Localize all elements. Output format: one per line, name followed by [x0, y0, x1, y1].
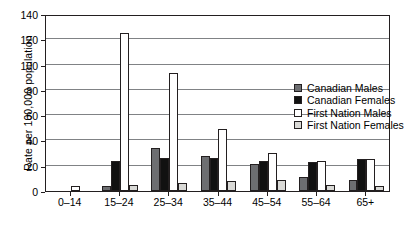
bar-chart-figure: Rate per 100,000 population 020406080100…	[0, 0, 407, 228]
legend-item: Canadian Males	[294, 82, 404, 94]
bar-group	[243, 16, 292, 191]
x-tick-label: 0–14	[45, 196, 94, 208]
x-tick-label: 55–64	[291, 196, 340, 208]
legend-label: First Nation Females	[307, 120, 404, 131]
bar	[357, 159, 366, 191]
x-tick-mark	[267, 192, 268, 196]
x-tick-label: 25–34	[144, 196, 193, 208]
legend-label: Canadian Females	[307, 95, 395, 106]
x-tick-label: 15–24	[94, 196, 143, 208]
bar-group	[145, 16, 194, 191]
bar	[71, 186, 80, 191]
bar	[349, 180, 358, 191]
y-tick-label: 120	[20, 35, 38, 45]
bar	[218, 129, 227, 191]
bar-group	[95, 16, 144, 191]
x-tick-mark	[316, 192, 317, 196]
bar	[326, 185, 335, 191]
bar	[151, 148, 160, 191]
x-tick-mark	[365, 192, 366, 196]
bar	[277, 180, 286, 191]
bar	[120, 33, 129, 191]
bar	[299, 177, 308, 191]
bar	[366, 159, 375, 191]
y-tick-label: 60	[26, 111, 38, 121]
bar	[178, 183, 187, 191]
legend-label: First Nation Males	[307, 108, 392, 119]
x-tick-mark	[218, 192, 219, 196]
legend-swatch-icon	[294, 109, 302, 117]
x-tick-label: 45–54	[242, 196, 291, 208]
bar-group	[194, 16, 243, 191]
y-tick-label: 100	[20, 61, 38, 71]
bar-group	[46, 16, 95, 191]
legend-swatch-icon	[294, 96, 302, 104]
bar	[268, 153, 277, 191]
legend-item: First Nation Males	[294, 107, 404, 119]
bar	[317, 161, 326, 191]
bar	[375, 186, 384, 191]
bar	[160, 158, 169, 191]
bar	[308, 162, 317, 191]
bar	[201, 156, 210, 191]
bar	[227, 181, 236, 191]
bar	[102, 186, 111, 191]
y-tick-label: 80	[26, 86, 38, 96]
legend: Canadian MalesCanadian FemalesFirst Nati…	[294, 82, 404, 131]
legend-label: Canadian Males	[307, 83, 383, 94]
legend-item: Canadian Females	[294, 95, 404, 107]
y-tick-label: 140	[20, 10, 38, 20]
x-tick-mark	[168, 192, 169, 196]
y-tick-label: 40	[26, 136, 38, 146]
legend-item: First Nation Females	[294, 120, 404, 132]
x-tick-label: 35–44	[193, 196, 242, 208]
bar	[259, 161, 268, 191]
bar	[250, 164, 259, 191]
legend-swatch-icon	[294, 84, 302, 92]
bar	[111, 161, 120, 191]
bar	[210, 158, 219, 191]
bar	[169, 73, 178, 191]
x-tick-label: 65+	[341, 196, 390, 208]
bar	[129, 185, 138, 191]
y-tick-label: 0	[32, 187, 38, 197]
x-tick-mark	[70, 192, 71, 196]
legend-swatch-icon	[294, 121, 302, 129]
y-tick-label: 20	[26, 162, 38, 172]
x-tick-mark	[119, 192, 120, 196]
y-tick-mark	[41, 192, 45, 193]
plot-area: Canadian MalesCanadian FemalesFirst Nati…	[45, 15, 390, 192]
y-axis-ticks: 020406080100120140	[0, 0, 45, 228]
